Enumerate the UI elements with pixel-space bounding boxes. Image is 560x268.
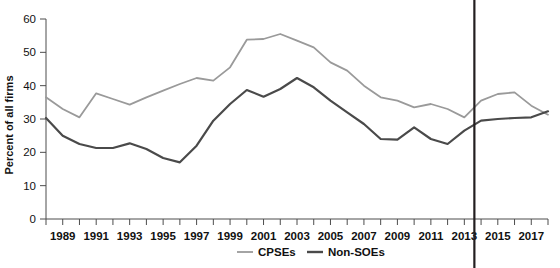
- x-tick-label: 2005: [318, 230, 344, 242]
- y-axis-title-text: Percent of all firms: [3, 75, 15, 174]
- y-tick-label: 30: [23, 113, 36, 125]
- series-line-cpses: [46, 34, 548, 117]
- x-tick-label: 1999: [217, 230, 243, 242]
- x-tick-label: 2015: [485, 230, 511, 242]
- legend-label-cpses: CPSEs: [258, 246, 296, 258]
- y-tick-label: 0: [30, 213, 36, 225]
- chart-legend: CPSEsNon-SOEs: [237, 246, 385, 258]
- series-line-non-soes: [46, 78, 548, 162]
- chart-container: Percent of all firms 0102030405060 19891…: [0, 0, 560, 268]
- y-tick-label: 40: [23, 80, 36, 92]
- y-axis-title: Percent of all firms: [3, 75, 15, 174]
- y-tick-label: 20: [23, 146, 36, 158]
- y-tick-label: 50: [23, 46, 36, 58]
- x-tick-label: 2007: [351, 230, 377, 242]
- x-axis-ticks: 1989199119931995199719992001200320052007…: [46, 219, 548, 242]
- x-tick-label: 1997: [184, 230, 210, 242]
- y-tick-label: 60: [23, 13, 36, 25]
- legend-label-non-soes: Non-SOEs: [328, 246, 385, 258]
- x-tick-label: 1995: [150, 230, 176, 242]
- x-tick-label: 2003: [284, 230, 310, 242]
- data-series-group: [46, 34, 548, 162]
- x-tick-label: 1989: [50, 230, 76, 242]
- x-tick-label: 2011: [418, 230, 444, 242]
- x-tick-label: 2017: [518, 230, 544, 242]
- x-tick-label: 1991: [83, 230, 109, 242]
- x-tick-label: 1993: [117, 230, 143, 242]
- axis-lines: [46, 19, 548, 219]
- y-axis-ticks: 0102030405060: [23, 13, 46, 225]
- y-tick-label: 10: [23, 180, 36, 192]
- line-chart: Percent of all firms 0102030405060 19891…: [0, 0, 560, 268]
- x-tick-label: 2001: [251, 230, 277, 242]
- x-tick-label: 2009: [385, 230, 411, 242]
